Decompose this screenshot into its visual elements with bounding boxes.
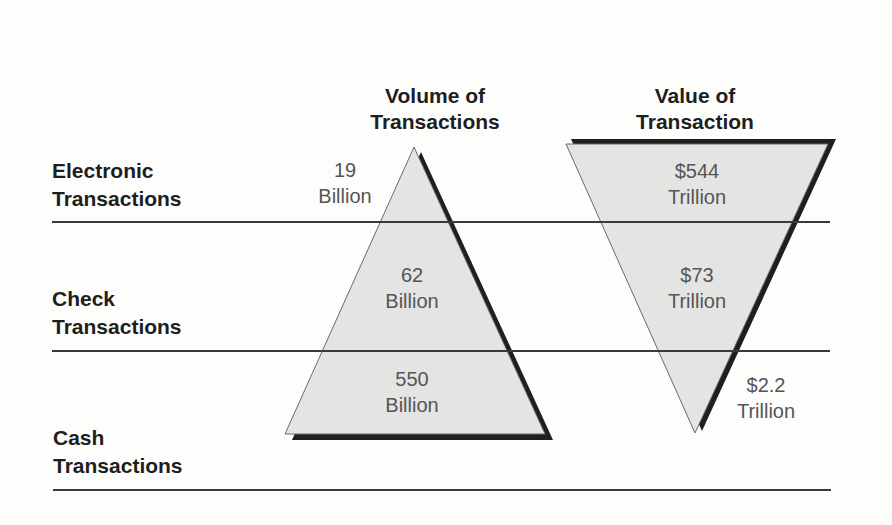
value-value-cash-unit: Trillion <box>724 398 808 424</box>
value-value-check: $73 Trillion <box>652 262 742 314</box>
column-title-value: Value of Transaction <box>590 83 800 135</box>
value-value-check-number: $73 <box>652 262 742 288</box>
column-title-volume: Volume of Transactions <box>330 83 540 135</box>
row-label-check-line2: Transactions <box>52 313 182 341</box>
row-label-electronic: Electronic Transactions <box>52 157 182 213</box>
column-title-value-line2: Transaction <box>590 109 800 135</box>
row-label-check: Check Transactions <box>52 285 182 341</box>
value-value-electronic: $544 Trillion <box>652 158 742 210</box>
value-value-check-unit: Trillion <box>652 288 742 314</box>
value-value-electronic-number: $544 <box>652 158 742 184</box>
row-label-check-line1: Check <box>52 285 182 313</box>
volume-value-electronic: 19 Billion <box>303 157 387 209</box>
row-label-electronic-line2: Transactions <box>52 185 182 213</box>
volume-value-electronic-number: 19 <box>303 157 387 183</box>
row-label-cash: Cash Transactions <box>53 424 183 480</box>
value-value-electronic-unit: Trillion <box>652 184 742 210</box>
volume-value-cash: 550 Billion <box>370 366 454 418</box>
column-title-value-line1: Value of <box>590 83 800 109</box>
value-value-cash: $2.2 Trillion <box>724 372 808 424</box>
row-label-electronic-line1: Electronic <box>52 157 182 185</box>
transactions-diagram: Volume of Transactions Value of Transact… <box>0 0 892 525</box>
volume-value-check-number: 62 <box>370 262 454 288</box>
row-label-cash-line2: Transactions <box>53 452 183 480</box>
volume-value-cash-number: 550 <box>370 366 454 392</box>
row-label-cash-line1: Cash <box>53 424 183 452</box>
value-value-cash-number: $2.2 <box>724 372 808 398</box>
column-title-volume-line2: Transactions <box>330 109 540 135</box>
volume-value-electronic-unit: Billion <box>303 183 387 209</box>
volume-value-check-unit: Billion <box>370 288 454 314</box>
volume-value-check: 62 Billion <box>370 262 454 314</box>
volume-value-cash-unit: Billion <box>370 392 454 418</box>
column-title-volume-line1: Volume of <box>330 83 540 109</box>
